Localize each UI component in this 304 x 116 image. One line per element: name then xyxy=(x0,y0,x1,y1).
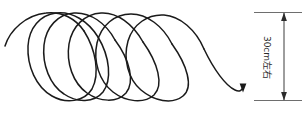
coil-diagram-canvas xyxy=(0,0,304,116)
coil-turn-5 xyxy=(126,15,204,101)
coil-diagram-figure: 30cm左右 xyxy=(0,0,304,116)
dimension-annotation-group xyxy=(254,13,302,101)
coil-group xyxy=(5,13,246,101)
dimension-arrow-top-icon xyxy=(281,13,287,22)
dimension-arrow-bottom-icon xyxy=(281,92,287,101)
coil-exit-tail xyxy=(204,49,243,91)
coil-turn-1 xyxy=(28,13,98,101)
